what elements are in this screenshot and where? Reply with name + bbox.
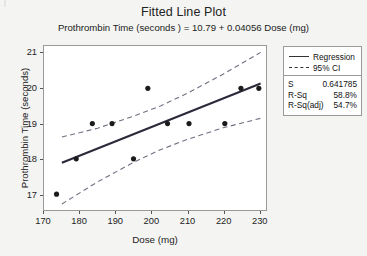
fitted-line-plot-figure: Fitted Line Plot Prothrombin Time (secon… xyxy=(0,0,367,256)
data-point-8 xyxy=(222,121,227,126)
x-tick-label-230: 230 xyxy=(243,216,277,226)
x-tick-label-180: 180 xyxy=(62,216,96,226)
x-tick-mark-180 xyxy=(79,211,80,214)
x-tick-label-170: 170 xyxy=(26,216,60,226)
statistics-box: S 0.641785 R-Sq 58.8% R-Sq(adj) 54.7% xyxy=(283,75,362,116)
chart-title: Fitted Line Plot xyxy=(0,5,367,19)
legend-swatch-dashed-line xyxy=(288,63,310,73)
x-tick-label-200: 200 xyxy=(134,216,168,226)
y-tick-mark-20 xyxy=(40,88,43,89)
stat-row-rsq: R-Sq 58.8% xyxy=(288,90,357,101)
x-tick-label-210: 210 xyxy=(171,216,205,226)
stat-label-rsqadj: R-Sq(adj) xyxy=(288,100,328,111)
x-tick-mark-190 xyxy=(115,211,116,214)
y-tick-mark-21 xyxy=(40,52,43,53)
y-tick-mark-17 xyxy=(40,195,43,196)
stat-label-rsq: R-Sq xyxy=(288,90,311,101)
x-tick-label-220: 220 xyxy=(207,216,241,226)
stat-label-s: S xyxy=(288,79,298,90)
stat-value-rsq: 58.8% xyxy=(333,90,357,101)
legend-label-ci: 95% CI xyxy=(310,63,340,73)
data-point-2 xyxy=(90,121,95,126)
legend-swatch-solid-line xyxy=(288,52,310,62)
x-tick-mark-170 xyxy=(43,211,44,214)
stat-row-s: S 0.641785 xyxy=(288,79,357,90)
data-point-1 xyxy=(74,156,79,161)
ci-band-lower xyxy=(62,118,261,204)
data-point-10 xyxy=(256,86,261,91)
data-point-5 xyxy=(145,86,150,91)
legend-item-regression: Regression xyxy=(288,51,357,62)
x-tick-mark-230 xyxy=(260,211,261,214)
data-point-7 xyxy=(186,121,191,126)
data-point-0 xyxy=(54,192,59,197)
y-tick-mark-18 xyxy=(40,159,43,160)
data-point-9 xyxy=(238,86,243,91)
plot-canvas xyxy=(44,46,266,210)
data-point-4 xyxy=(131,156,136,161)
y-axis-label: Prothrombin Time (seconds) xyxy=(19,48,30,208)
stat-value-s: 0.641785 xyxy=(322,79,357,90)
data-point-6 xyxy=(165,121,170,126)
x-axis-label: Dose (mg) xyxy=(0,234,310,245)
legend-item-ci: 95% CI xyxy=(288,62,357,73)
x-tick-mark-200 xyxy=(151,211,152,214)
stat-row-rsqadj: R-Sq(adj) 54.7% xyxy=(288,100,357,111)
data-point-3 xyxy=(109,121,114,126)
stat-value-rsqadj: 54.7% xyxy=(333,100,357,111)
plot-area xyxy=(43,45,267,211)
x-tick-label-190: 190 xyxy=(98,216,132,226)
x-tick-mark-210 xyxy=(188,211,189,214)
legend-label-regression: Regression xyxy=(310,52,355,62)
y-tick-mark-19 xyxy=(40,124,43,125)
x-tick-mark-220 xyxy=(224,211,225,214)
legend-box: Regression 95% CI xyxy=(283,46,362,78)
chart-subtitle: Prothrombin Time (seconds ) = 10.79 + 0.… xyxy=(0,22,367,33)
